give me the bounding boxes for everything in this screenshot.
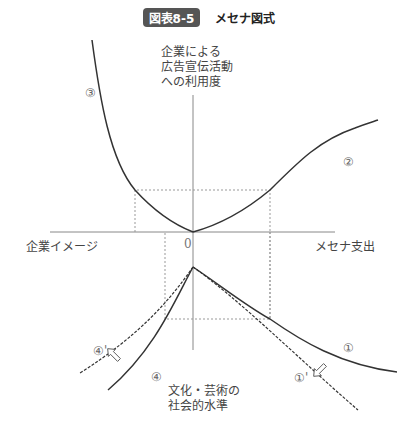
origin-label: 0	[184, 237, 192, 252]
y-top-line-1: 企業による	[161, 45, 233, 60]
dotted-guide-lower	[165, 232, 270, 319]
curve-2-label: ②	[343, 155, 354, 169]
y-top-line-2: 広告宣伝活動	[161, 60, 233, 75]
y-bottom-line-1: 文化・芸術の	[168, 384, 240, 399]
dotted-guide-upper	[135, 190, 270, 232]
y-axis-top-label: 企業による 広告宣伝活動 への利用度	[161, 45, 233, 90]
curve-3-label: ③	[85, 86, 96, 100]
x-axis-right-label: メセナ支出	[315, 240, 375, 255]
curve-1-label: ①	[343, 341, 354, 355]
curve-2	[193, 120, 378, 232]
y-axis-bottom-label: 文化・芸術の 社会的水準	[168, 384, 240, 414]
curve-4-label: ④	[151, 370, 162, 384]
y-bottom-line-2: 社会的水準	[168, 399, 240, 414]
x-axis-left-label: 企業イメージ	[26, 240, 98, 255]
curve-4-prime-label: ④'	[93, 344, 107, 358]
y-top-line-3: への利用度	[161, 75, 233, 90]
curve-1-prime-label: ①'	[294, 371, 308, 385]
